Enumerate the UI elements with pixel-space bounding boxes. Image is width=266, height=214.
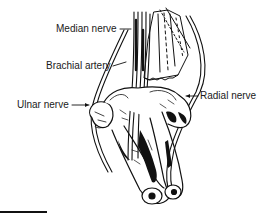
label-brachial-artery: Brachial artery [46, 60, 110, 72]
elbow-anatomy-figure: Median nerve Brachial artery Ulnar nerve… [0, 0, 266, 214]
label-ulnar-nerve: Ulnar nerve [17, 99, 69, 111]
label-radial-nerve: Radial nerve [200, 90, 256, 102]
leader-brachial-artery [113, 62, 126, 66]
label-median-nerve: Median nerve [56, 23, 117, 35]
caption-divider-rule [0, 211, 47, 213]
biceps-aponeurosis [144, 8, 190, 80]
